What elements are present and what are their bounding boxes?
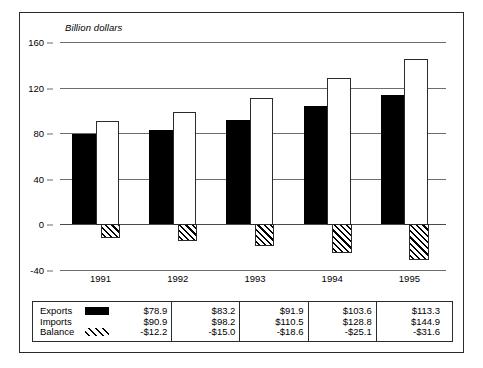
y-axis-tick-120: 120 (19, 82, 53, 93)
legend-value-balance-1991: -$12.2 (111, 327, 167, 338)
bar-imports-1992 (173, 112, 197, 225)
x-axis-labels: 19911992199319941995 (60, 273, 446, 291)
bar-balance-1992 (178, 224, 198, 241)
bar-exports-1995 (381, 95, 405, 224)
legend-series-names: Exports Imports Balance (40, 306, 74, 338)
y-axis-tick-80: 80 (19, 128, 53, 139)
legend-label-balance: Balance (40, 327, 74, 338)
legend-values-1992: $83.2$98.2-$15.0 (179, 306, 235, 338)
chart-figure: Billion dollars 16012080400-40 199119921… (19, 12, 464, 353)
legend-swatch-imports-icon (85, 318, 109, 326)
bar-group-1995 (369, 42, 446, 270)
bar-balance-1995 (409, 224, 429, 260)
legend-column-separator (171, 302, 172, 341)
hatch-pattern-icon (178, 224, 198, 241)
bar-exports-1994 (304, 106, 328, 224)
bar-group-1993 (214, 42, 291, 270)
gridline--40 (60, 270, 446, 271)
legend-column-separator (308, 302, 309, 341)
bar-exports-1991 (72, 134, 96, 224)
bar-exports-1993 (226, 120, 250, 225)
bar-balance-1993 (255, 224, 275, 245)
bar-group-1994 (292, 42, 369, 270)
x-axis-label-1994: 1994 (322, 273, 343, 284)
bar-imports-1993 (250, 98, 274, 225)
y-axis-tick-40: 40 (19, 173, 53, 184)
y-axis-tick--40: -40 (19, 265, 53, 276)
y-axis-tick-0: 0 (19, 219, 53, 230)
hatch-pattern-icon (101, 224, 121, 238)
legend-value-balance-1992: -$15.0 (179, 327, 235, 338)
legend-swatches (85, 306, 111, 338)
bar-group-1991 (60, 42, 137, 270)
legend-value-balance-1994: -$25.1 (316, 327, 372, 338)
legend-values-1991: $78.9$90.9-$12.2 (111, 306, 167, 338)
legend-swatch-balance-icon (85, 328, 109, 336)
legend-swatch-exports-icon (85, 307, 109, 315)
x-axis-label-1993: 1993 (244, 273, 265, 284)
y-axis-title: Billion dollars (65, 22, 122, 33)
legend-values-1995: $113.3$144.9-$31.6 (384, 306, 440, 338)
plot-area: 16012080400-40 (60, 42, 446, 270)
bar-balance-1991 (101, 224, 121, 238)
legend-value-balance-1995: -$31.6 (384, 327, 440, 338)
legend-column-separator (376, 302, 377, 341)
hatch-pattern-icon (255, 224, 275, 245)
bar-balance-1994 (332, 224, 352, 253)
bar-imports-1991 (96, 121, 120, 226)
bar-group-1992 (137, 42, 214, 270)
hatch-pattern-icon (332, 224, 352, 253)
x-axis-label-1992: 1992 (167, 273, 188, 284)
y-axis-tick-160: 160 (19, 37, 53, 48)
bar-imports-1995 (404, 59, 428, 225)
legend-values-1993: $91.9$110.5-$18.6 (247, 306, 303, 338)
x-axis-label-1995: 1995 (399, 273, 420, 284)
legend-value-balance-1993: -$18.6 (247, 327, 303, 338)
x-axis-label-1991: 1991 (90, 273, 111, 284)
legend-column-separator (239, 302, 240, 341)
legend-values-1994: $103.6$128.8-$25.1 (316, 306, 372, 338)
legend-data-table: Exports Imports Balance $78.9$90.9-$12.2… (32, 301, 453, 342)
hatch-pattern-icon (409, 224, 429, 260)
bar-imports-1994 (327, 78, 351, 226)
bar-exports-1992 (149, 130, 173, 225)
